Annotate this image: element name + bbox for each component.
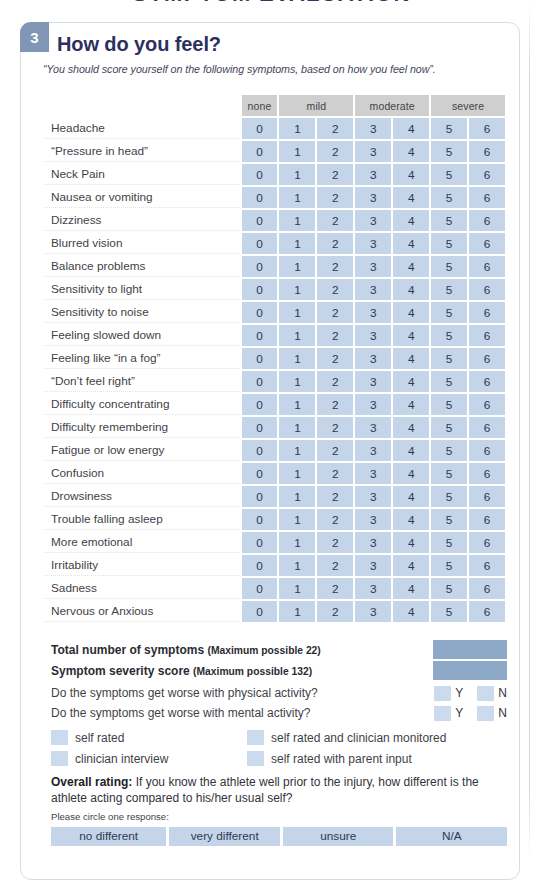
score-cell[interactable]: 6 — [469, 210, 505, 231]
score-cell[interactable]: 2 — [317, 302, 353, 323]
score-cell[interactable]: 1 — [279, 348, 315, 369]
score-cell[interactable]: 4 — [393, 463, 429, 484]
score-cell[interactable]: 5 — [431, 233, 467, 254]
score-cell[interactable]: 5 — [431, 256, 467, 277]
score-cell[interactable]: 0 — [242, 302, 278, 323]
clinician-interview-checkbox[interactable] — [51, 751, 68, 766]
score-cell[interactable]: 3 — [355, 279, 391, 300]
score-cell[interactable]: 2 — [317, 440, 353, 461]
score-cell[interactable]: 5 — [431, 601, 467, 622]
score-cell[interactable]: 4 — [393, 348, 429, 369]
score-cell[interactable]: 3 — [355, 509, 391, 530]
score-cell[interactable]: 2 — [317, 141, 353, 162]
score-cell[interactable]: 4 — [393, 302, 429, 323]
score-cell[interactable]: 0 — [242, 463, 278, 484]
score-cell[interactable]: 0 — [242, 417, 278, 438]
score-cell[interactable]: 3 — [355, 141, 391, 162]
choice-na[interactable]: N/A — [396, 827, 507, 846]
score-cell[interactable]: 0 — [242, 210, 278, 231]
score-cell[interactable]: 5 — [431, 141, 467, 162]
score-cell[interactable]: 5 — [431, 532, 467, 553]
score-cell[interactable]: 2 — [317, 233, 353, 254]
score-cell[interactable]: 3 — [355, 348, 391, 369]
score-cell[interactable]: 5 — [431, 463, 467, 484]
score-cell[interactable]: 0 — [242, 256, 278, 277]
score-cell[interactable]: 1 — [279, 141, 315, 162]
score-cell[interactable]: 6 — [469, 164, 505, 185]
score-cell[interactable]: 5 — [431, 417, 467, 438]
score-cell[interactable]: 1 — [279, 371, 315, 392]
score-cell[interactable]: 3 — [355, 440, 391, 461]
choice-very-different[interactable]: very different — [169, 827, 280, 846]
score-cell[interactable]: 0 — [242, 440, 278, 461]
score-cell[interactable]: 1 — [279, 578, 315, 599]
score-cell[interactable]: 2 — [317, 371, 353, 392]
score-cell[interactable]: 3 — [355, 187, 391, 208]
score-cell[interactable]: 1 — [279, 486, 315, 507]
score-cell[interactable]: 2 — [317, 509, 353, 530]
score-cell[interactable]: 5 — [431, 371, 467, 392]
score-cell[interactable]: 3 — [355, 325, 391, 346]
score-cell[interactable]: 5 — [431, 325, 467, 346]
score-cell[interactable]: 1 — [279, 532, 315, 553]
score-cell[interactable]: 3 — [355, 256, 391, 277]
score-cell[interactable]: 1 — [279, 509, 315, 530]
score-cell[interactable]: 3 — [355, 371, 391, 392]
score-cell[interactable]: 1 — [279, 325, 315, 346]
score-cell[interactable]: 3 — [355, 555, 391, 576]
score-cell[interactable]: 4 — [393, 440, 429, 461]
score-cell[interactable]: 0 — [242, 578, 278, 599]
score-cell[interactable]: 1 — [279, 601, 315, 622]
score-cell[interactable]: 6 — [469, 256, 505, 277]
score-cell[interactable]: 2 — [317, 164, 353, 185]
score-cell[interactable]: 0 — [242, 394, 278, 415]
score-cell[interactable]: 2 — [317, 532, 353, 553]
score-cell[interactable]: 2 — [317, 325, 353, 346]
score-cell[interactable]: 1 — [279, 279, 315, 300]
score-cell[interactable]: 4 — [393, 118, 429, 139]
method-clinician-interview[interactable]: clinician interview — [51, 751, 247, 766]
score-cell[interactable]: 5 — [431, 118, 467, 139]
total-symptoms-input[interactable] — [433, 640, 507, 659]
method-self-rated[interactable]: self rated — [51, 730, 247, 745]
score-cell[interactable]: 6 — [469, 233, 505, 254]
score-cell[interactable]: 3 — [355, 233, 391, 254]
score-cell[interactable]: 4 — [393, 394, 429, 415]
score-cell[interactable]: 3 — [355, 164, 391, 185]
score-cell[interactable]: 6 — [469, 578, 505, 599]
score-cell[interactable]: 3 — [355, 394, 391, 415]
score-cell[interactable]: 4 — [393, 371, 429, 392]
score-cell[interactable]: 4 — [393, 279, 429, 300]
score-cell[interactable]: 3 — [355, 486, 391, 507]
self-rated-checkbox[interactable] — [51, 730, 68, 745]
score-cell[interactable]: 4 — [393, 601, 429, 622]
score-cell[interactable]: 6 — [469, 348, 505, 369]
score-cell[interactable]: 6 — [469, 394, 505, 415]
score-cell[interactable]: 6 — [469, 371, 505, 392]
score-cell[interactable]: 1 — [279, 417, 315, 438]
score-cell[interactable]: 4 — [393, 187, 429, 208]
score-cell[interactable]: 3 — [355, 532, 391, 553]
mental-yes-checkbox[interactable] — [434, 706, 451, 721]
score-cell[interactable]: 4 — [393, 233, 429, 254]
score-cell[interactable]: 4 — [393, 325, 429, 346]
score-cell[interactable]: 5 — [431, 555, 467, 576]
severity-score-input[interactable] — [433, 661, 507, 680]
score-cell[interactable]: 0 — [242, 141, 278, 162]
score-cell[interactable]: 2 — [317, 187, 353, 208]
mental-no-checkbox[interactable] — [477, 706, 494, 721]
score-cell[interactable]: 4 — [393, 486, 429, 507]
score-cell[interactable]: 5 — [431, 302, 467, 323]
score-cell[interactable]: 1 — [279, 394, 315, 415]
score-cell[interactable]: 0 — [242, 164, 278, 185]
score-cell[interactable]: 2 — [317, 463, 353, 484]
score-cell[interactable]: 3 — [355, 302, 391, 323]
score-cell[interactable]: 4 — [393, 141, 429, 162]
score-cell[interactable]: 5 — [431, 509, 467, 530]
score-cell[interactable]: 2 — [317, 601, 353, 622]
score-cell[interactable]: 4 — [393, 417, 429, 438]
score-cell[interactable]: 5 — [431, 440, 467, 461]
self-rated-clinician-monitored-checkbox[interactable] — [247, 730, 264, 745]
score-cell[interactable]: 0 — [242, 325, 278, 346]
score-cell[interactable]: 4 — [393, 256, 429, 277]
